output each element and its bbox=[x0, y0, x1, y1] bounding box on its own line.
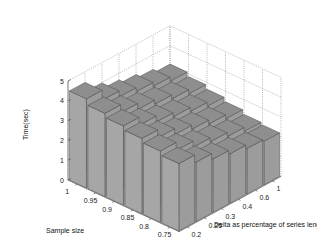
x-tick-label: 0.95 bbox=[84, 197, 98, 204]
bar-chart-3d: 01234510.950.90.850.80.750.20.250.30.40.… bbox=[0, 0, 317, 239]
z-tick-label: 1 bbox=[60, 157, 64, 164]
z-tick-label: 5 bbox=[60, 78, 64, 85]
x-axis-label: Sample size bbox=[46, 227, 84, 235]
z-tick-label: 2 bbox=[60, 137, 64, 144]
y-tick-label: 0.3 bbox=[226, 213, 236, 220]
x-tick-label: 0.75 bbox=[158, 231, 172, 238]
y-tick-label: 0.4 bbox=[243, 203, 253, 210]
y-axis-label: Delta as percentage of series length bbox=[214, 221, 317, 229]
x-tick-label: 1 bbox=[65, 188, 69, 195]
z-tick-label: 0 bbox=[60, 177, 64, 184]
z-axis-label: Time(sec) bbox=[22, 109, 30, 140]
z-tick-label: 4 bbox=[60, 97, 64, 104]
x-tick-label: 0.9 bbox=[102, 206, 112, 213]
y-tick-label: 0.2 bbox=[192, 231, 202, 238]
y-tick-label: 0.6 bbox=[260, 194, 270, 201]
y-tick-label: 1 bbox=[277, 185, 281, 192]
x-tick-label: 0.8 bbox=[139, 223, 149, 230]
bar bbox=[162, 147, 195, 231]
x-tick-label: 0.85 bbox=[121, 214, 135, 221]
z-tick-label: 3 bbox=[60, 117, 64, 124]
